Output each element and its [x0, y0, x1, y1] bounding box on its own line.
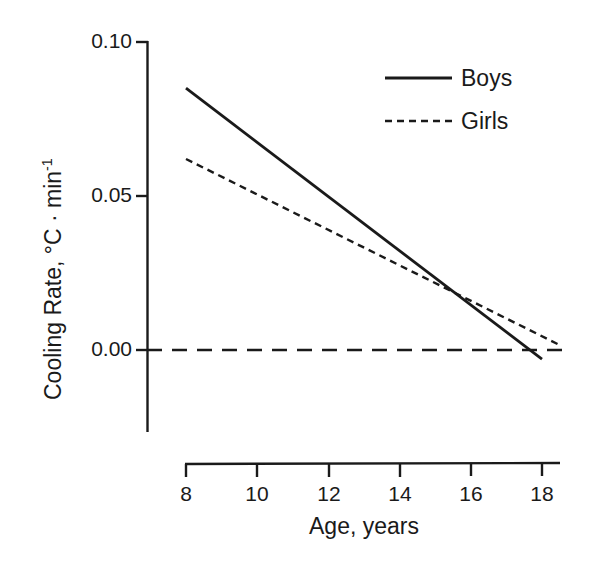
- x-axis-title: Age, years: [219, 513, 509, 540]
- legend-label-girls: Girls: [461, 108, 508, 135]
- x-tick-label-16: 16: [446, 482, 496, 506]
- y-axis-title-exponent: -1: [39, 158, 55, 171]
- y-tick-label-0.10: 0.10: [48, 29, 132, 53]
- legend-label-boys: Boys: [461, 65, 512, 92]
- y-axis-title: Cooling Rate, °C · min-1: [40, 158, 67, 400]
- x-tick-label-12: 12: [304, 482, 354, 506]
- x-tick-label-10: 10: [232, 482, 282, 506]
- x-tick-label-18: 18: [517, 482, 567, 506]
- x-tick-label-14: 14: [375, 482, 425, 506]
- x-axis-line: [185, 463, 560, 464]
- y-axis-title-text: Cooling Rate, °C · min: [40, 171, 66, 400]
- chart-figure: 0.10 0.05 0.00 8 10 12 14 16 18 Cooling …: [0, 0, 589, 574]
- x-tick-label-8: 8: [161, 482, 211, 506]
- series-line-girls: [186, 159, 560, 345]
